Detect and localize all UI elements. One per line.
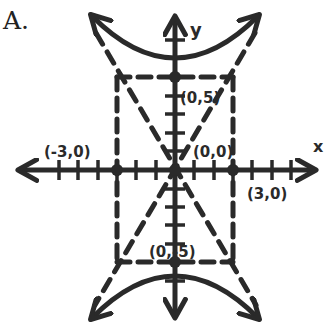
- hyperbola-diagram: y x (0,5) (0,0) (-3,0) (3,0) (0,-5): [0, 0, 324, 327]
- axes: [20, 18, 314, 316]
- point-vertex-top: [169, 71, 181, 83]
- x-axis-label: x: [313, 137, 324, 156]
- point-left-co-vertex: [111, 164, 123, 176]
- point-right-co-vertex: [227, 164, 239, 176]
- point-label-top: (0,5): [180, 89, 220, 107]
- point-label-left: (-3,0): [44, 143, 91, 161]
- point-label-origin: (0,0): [193, 143, 233, 161]
- y-axis-label: y: [190, 19, 202, 40]
- point-origin: [169, 164, 181, 176]
- point-label-right: (3,0): [247, 185, 287, 203]
- point-label-bottom: (0,-5): [149, 243, 196, 261]
